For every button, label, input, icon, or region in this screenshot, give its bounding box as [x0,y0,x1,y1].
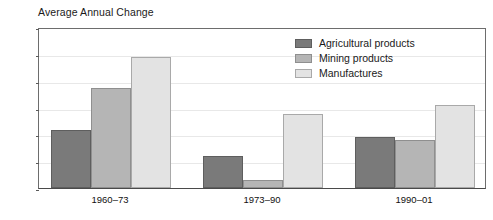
y-axis-tick-mark [36,29,39,30]
legend-item-label: Manufactures [319,67,383,79]
legend-item-label: Mining products [319,52,393,64]
y-axis-tick-mark [36,190,39,191]
legend-item-label: Agricultural products [319,37,415,49]
bar [435,105,475,188]
y-axis-tick-mark [36,136,39,137]
bar [395,140,435,188]
legend-swatch-icon [295,54,312,63]
bar [51,130,91,188]
bar-chart: Average Annual Change 024681012 1960–731… [0,0,493,220]
legend-item: Agricultural products [295,36,415,50]
legend-item: Mining products [295,51,415,65]
bar [243,180,283,188]
gridline [39,56,485,57]
chart-legend: Agricultural productsMining productsManu… [295,36,415,81]
plot-area [38,28,486,189]
chart-title: Average Annual Change [38,6,154,18]
bar [283,114,323,188]
x-axis-tick-label: 1990–01 [396,194,433,205]
legend-swatch-icon [295,39,312,48]
y-axis-tick-mark [36,56,39,57]
gridline [39,83,485,84]
x-axis-tick-label: 1960–73 [92,194,129,205]
legend-swatch-icon [295,69,312,78]
bar [355,137,395,188]
legend-item: Manufactures [295,66,415,80]
y-axis-tick-mark [36,163,39,164]
bar [91,88,131,188]
y-axis-tick-mark [36,83,39,84]
bar [203,156,243,188]
y-axis-tick-mark [36,110,39,111]
bar [131,57,171,188]
x-axis-tick-label: 1973–90 [244,194,281,205]
